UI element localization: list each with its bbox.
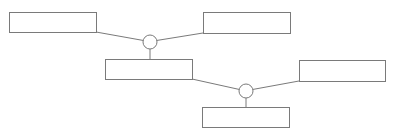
box-1[interactable] — [10, 13, 97, 33]
box-5[interactable] — [203, 108, 290, 128]
box-2[interactable] — [204, 13, 291, 34]
junction-circle-2 — [239, 84, 253, 98]
box-3[interactable] — [106, 60, 193, 80]
connector-box1-junction1 — [96, 32, 144, 41]
diagram-canvas — [0, 0, 394, 137]
connector-box4-junction2 — [253, 81, 300, 90]
junction-circle-1 — [143, 35, 157, 49]
box-4[interactable] — [300, 61, 386, 82]
connector-box2-junction1 — [157, 33, 204, 41]
connector-box3-junction2 — [192, 79, 240, 90]
